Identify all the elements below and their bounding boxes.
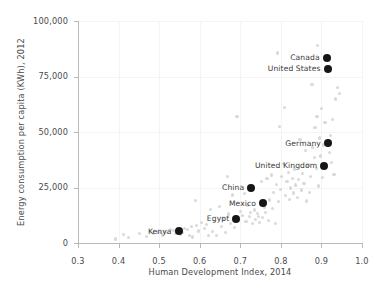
highlighted-data-point[interactable] xyxy=(247,184,255,192)
data-point xyxy=(285,180,288,183)
y-tickmark xyxy=(74,188,78,189)
y-tick-label-1: 25,000 xyxy=(0,182,68,193)
data-point xyxy=(275,183,278,186)
x-tickmark xyxy=(240,244,241,248)
data-point xyxy=(284,194,287,197)
y-axis-title: Energy consumption per capita (KWh), 201… xyxy=(14,21,28,243)
data-point xyxy=(261,216,264,219)
x-tick-label-text: 1.0 xyxy=(355,256,368,266)
data-point xyxy=(302,182,305,185)
data-point xyxy=(329,134,332,137)
highlighted-data-point[interactable] xyxy=(259,199,267,207)
data-point xyxy=(330,161,333,164)
data-point-label: Mexico xyxy=(229,199,256,208)
data-point xyxy=(291,177,294,180)
data-point xyxy=(248,215,251,218)
data-point xyxy=(260,180,263,183)
gridline-horizontal xyxy=(78,188,362,189)
highlighted-data-point[interactable] xyxy=(324,139,332,147)
data-point xyxy=(226,175,229,178)
data-point xyxy=(305,199,308,202)
data-point xyxy=(249,211,252,214)
data-point xyxy=(313,156,316,159)
data-point xyxy=(239,210,242,213)
data-point xyxy=(308,191,311,194)
y-tick-label-text: 25,000 xyxy=(0,182,68,192)
data-point-label: Germany xyxy=(285,139,321,148)
data-point xyxy=(243,192,246,195)
data-point-label: United Kingdom xyxy=(255,161,317,170)
highlighted-data-point[interactable] xyxy=(320,162,328,170)
x-tick-label-0: 0.3 xyxy=(58,249,98,260)
x-tickmark xyxy=(119,244,120,248)
x-tick-label-3: 0.6 xyxy=(180,249,220,260)
x-tickmark xyxy=(159,244,160,248)
x-tickmark xyxy=(321,244,322,248)
data-point xyxy=(315,115,318,118)
x-tickmark xyxy=(200,244,201,248)
data-point xyxy=(321,176,324,179)
data-point xyxy=(186,228,189,231)
data-point xyxy=(267,219,270,222)
x-tickmark xyxy=(281,244,282,248)
x-tick-label-4: 0.7 xyxy=(220,249,260,260)
y-axis-line xyxy=(78,21,79,244)
data-point xyxy=(194,199,197,202)
x-tickmark xyxy=(362,244,363,248)
data-point xyxy=(229,222,232,225)
data-point xyxy=(215,234,218,237)
gridline-horizontal xyxy=(78,77,362,78)
data-point xyxy=(211,230,214,233)
data-point xyxy=(257,215,260,218)
data-point xyxy=(265,177,268,180)
data-point xyxy=(297,178,300,181)
y-tick-label-4: 100,000 xyxy=(0,16,68,27)
data-point xyxy=(283,106,286,109)
data-point xyxy=(218,205,221,208)
y-tick-label-2: 50,000 xyxy=(0,127,68,138)
x-tick-label-text: 0.3 xyxy=(71,256,84,266)
data-point xyxy=(309,175,312,178)
data-point xyxy=(276,51,279,54)
data-point xyxy=(323,121,326,124)
y-tickmark xyxy=(74,21,78,22)
gridline-horizontal xyxy=(78,21,362,22)
y-tick-label-text: 75,000 xyxy=(0,71,68,81)
x-tick-label-2: 0.5 xyxy=(139,249,179,260)
data-point xyxy=(251,222,254,225)
highlighted-data-point[interactable] xyxy=(232,215,240,223)
x-tick-label-text: 0.5 xyxy=(152,256,165,266)
gridline-horizontal xyxy=(78,132,362,133)
data-point-label: United States xyxy=(268,64,321,73)
y-tickmark xyxy=(74,132,78,133)
data-point xyxy=(127,236,130,239)
data-point xyxy=(288,198,291,201)
data-point xyxy=(331,118,334,121)
y-tick-label-3: 75,000 xyxy=(0,71,68,82)
highlighted-data-point[interactable] xyxy=(324,65,332,73)
scatter-chart-figure: 100,000 75,000 50,000 25,000 0 0.3 0.4 0… xyxy=(0,0,377,287)
data-point xyxy=(338,92,341,95)
highlighted-data-point[interactable] xyxy=(323,54,331,62)
data-point xyxy=(336,86,339,89)
data-point xyxy=(205,223,208,226)
data-point xyxy=(209,208,212,211)
x-tick-label-7: 1.0 xyxy=(342,249,377,260)
y-tick-label-0: 0 xyxy=(0,238,68,249)
data-point-label: Canada xyxy=(290,53,320,62)
data-point xyxy=(289,186,292,189)
gridline-vertical xyxy=(362,21,363,243)
data-point xyxy=(313,126,316,129)
data-point xyxy=(224,231,227,234)
x-tick-label-text: 0.4 xyxy=(112,256,125,266)
data-point xyxy=(200,221,203,224)
x-tick-label-text: 0.6 xyxy=(193,256,206,266)
data-point-label: Egypt xyxy=(207,214,229,223)
data-point xyxy=(332,173,335,176)
x-tick-label-text: 0.7 xyxy=(234,256,247,266)
data-point xyxy=(231,193,234,196)
data-point xyxy=(233,226,236,229)
data-point-label: Kenya xyxy=(148,227,172,236)
data-point xyxy=(138,232,141,235)
data-point xyxy=(253,208,256,211)
